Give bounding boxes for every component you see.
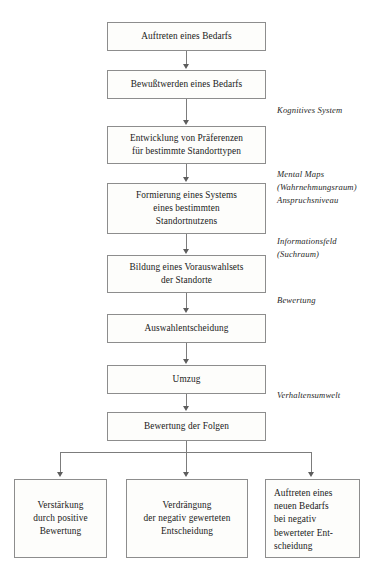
- flowchart-diagram: Auftreten eines Bedarfs Bewußtwerden ein…: [0, 0, 379, 572]
- node-label: Auftreten eines neuen Bedarfs bei negati…: [274, 487, 333, 553]
- node-auftreten-bedarfs: Auftreten eines Bedarfs: [107, 22, 266, 51]
- node-label: Umzug: [173, 373, 201, 386]
- branch-arrowhead: [308, 472, 314, 477]
- node-auswahlentscheidung: Auswahlentscheidung: [107, 314, 266, 343]
- node-label: Auftreten eines Bedarfs: [141, 30, 232, 43]
- branch-arrowhead: [57, 472, 63, 477]
- node-bewusstwerden-bedarfs: Bewußtwerden eines Bedarfs: [107, 70, 266, 99]
- node-label: Auswahlentscheidung: [144, 322, 228, 335]
- connector-line: [186, 99, 187, 121]
- node-label: Verstärkung durch positive Bewertung: [33, 499, 87, 539]
- node-entwicklung-praeferenzen: Entwicklung von Präferenzen für bestimmt…: [107, 126, 266, 164]
- connector-line: [186, 293, 187, 309]
- connector-arrowhead: [183, 359, 189, 364]
- connector-arrowhead: [183, 308, 189, 313]
- node-label: Formierung eines Systems eines bestimmte…: [136, 189, 237, 229]
- node-label: Verdrängung der negativ gewerteten Entsc…: [144, 499, 231, 539]
- connector-arrowhead: [183, 249, 189, 254]
- connector-line: [186, 234, 187, 250]
- connector-arrowhead: [183, 64, 189, 69]
- node-label: Entwicklung von Präferenzen für bestimmt…: [130, 132, 243, 158]
- connector-line: [186, 51, 187, 65]
- connector-line: [186, 164, 187, 178]
- annotation-verhaltensumwelt: Verhaltensumwelt: [277, 389, 340, 402]
- connector-arrowhead: [183, 120, 189, 125]
- node-verstaerkung: Verstärkung durch positive Bewertung: [14, 479, 107, 558]
- annotation-kognitives-system: Kognitives System: [277, 104, 342, 117]
- connector-line: [186, 343, 187, 360]
- branch-drop-line: [186, 452, 187, 473]
- node-label: Bewußtwerden eines Bedarfs: [131, 78, 243, 91]
- connector-arrowhead: [183, 406, 189, 411]
- node-umzug: Umzug: [107, 365, 266, 394]
- node-label: Bildung eines Vorauswahlsets der Standor…: [129, 261, 243, 287]
- annotation-bewertung: Bewertung: [277, 294, 316, 307]
- branch-drop-line: [311, 452, 312, 473]
- branch-arrowhead: [183, 472, 189, 477]
- annotation-informationsfeld: Informationsfeld (Suchraum): [277, 235, 337, 261]
- node-bildung-vorauswahlset: Bildung eines Vorauswahlsets der Standor…: [107, 255, 266, 293]
- connector-arrowhead: [183, 177, 189, 182]
- node-bewertung-folgen: Bewertung der Folgen: [107, 412, 266, 441]
- node-verdraengung: Verdrängung der negativ gewerteten Entsc…: [126, 479, 248, 558]
- node-formierung-system: Formierung eines Systems eines bestimmte…: [107, 183, 266, 234]
- annotation-mental-maps: Mental Maps (Wahrnehmungsraum) Anspruchs…: [277, 168, 357, 207]
- node-label: Bewertung der Folgen: [144, 420, 229, 433]
- branch-drop-line: [60, 452, 61, 473]
- node-auftreten-neuer-bedarf: Auftreten eines neuen Bedarfs bei negati…: [265, 479, 360, 558]
